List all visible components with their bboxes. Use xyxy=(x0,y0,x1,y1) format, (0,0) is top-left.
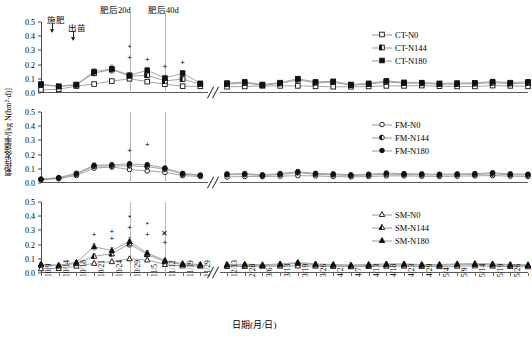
legend-item[interactable]: CT-N180 xyxy=(372,54,427,67)
y-tick-label: 0.4 xyxy=(19,212,38,221)
reference-line-40d xyxy=(165,112,166,183)
x-tick-label: 11/12 xyxy=(168,260,177,277)
x-tick-label: 3/6 xyxy=(265,267,274,277)
legend-label: CT-N144 xyxy=(395,43,427,53)
y-tick-label: 0.1 xyxy=(19,74,38,83)
legend-glyph xyxy=(380,148,385,153)
x-tick-label: 12/13 xyxy=(230,260,239,277)
y-tick-label: 0.0 xyxy=(19,269,38,278)
significance-marker: + xyxy=(127,54,132,62)
label-after-20d: 肥后20d xyxy=(100,3,131,15)
x-axis-title: 日期(月/日) xyxy=(232,318,277,331)
x-tick-label: 3/13 xyxy=(283,264,292,277)
legend-glyph xyxy=(380,122,385,127)
y-tick-label: 0.5 xyxy=(19,108,38,117)
legend-label: SM-N144 xyxy=(395,223,429,233)
panel-ct xyxy=(41,22,528,93)
significance-marker: + xyxy=(109,235,114,243)
x-tick-label: 4/2 xyxy=(336,267,345,277)
y-tick-label: 0.1 xyxy=(19,164,38,173)
x-tick-label: 4/18 xyxy=(389,264,398,277)
y-tick-label: 0.5 xyxy=(19,198,38,207)
legend-marker-circle-open xyxy=(372,120,392,129)
significance-marker: + xyxy=(163,239,168,247)
legend-label: FM-N144 xyxy=(395,133,429,143)
legend-label: FM-N0 xyxy=(395,120,421,130)
legend-glyph xyxy=(379,225,384,230)
legend-glyph xyxy=(379,212,384,217)
legend-item[interactable]: FM-N180 xyxy=(372,144,429,157)
x-tick-label: 11/5 xyxy=(150,264,159,277)
x-tick-label: 2/28 xyxy=(248,264,257,277)
significance-marker: + xyxy=(145,56,150,64)
x-tick-label: 4/7 xyxy=(354,267,363,277)
legend-label: FM-N180 xyxy=(395,146,429,156)
legend-ct: CT-N0 CT-N144 CT-N180 xyxy=(372,28,427,67)
x-tick-label: 10/24 xyxy=(115,260,124,277)
x-tick-label: 5/19 xyxy=(496,264,505,277)
y-tick-label: 0.0 xyxy=(19,179,38,188)
legend-marker-triangle-filled xyxy=(372,236,392,245)
x-tick-label: 5/9 xyxy=(460,267,469,277)
x-tick-label: 11/29 xyxy=(203,260,212,277)
legend-item[interactable]: FM-N0 xyxy=(372,118,429,131)
panel-fm xyxy=(41,112,528,183)
reference-line-40d xyxy=(165,12,166,93)
legend-marker-triangle-half xyxy=(372,223,392,232)
x-tick-label: 3/19 xyxy=(301,264,310,277)
legend-marker-square-half xyxy=(372,43,392,52)
significance-marker: + xyxy=(145,231,150,239)
x-tick-label: 4/23 xyxy=(407,264,416,277)
legend-marker-square-open xyxy=(372,30,392,39)
legend-label: CT-N180 xyxy=(395,56,427,66)
legend-marker-circle-half xyxy=(372,133,392,142)
x-tick-label: 10/18 xyxy=(79,260,88,277)
legend-marker-square-filled xyxy=(372,56,392,65)
y-tick-label: 0.4 xyxy=(19,122,38,131)
label-after-40d: 肥后40d xyxy=(148,3,179,15)
significance-marker: + xyxy=(92,231,97,239)
x-tick-label: 3/26 xyxy=(319,264,328,277)
y-tick-label: 0.0 xyxy=(19,89,38,98)
x-tick-label: 10/14 xyxy=(62,260,71,277)
legend-glyph xyxy=(380,32,385,37)
x-tick-label: 5/14 xyxy=(478,264,487,277)
legend-label: SM-N180 xyxy=(395,236,429,246)
x-tick-label: 11/19 xyxy=(186,260,195,277)
y-tick-label: 0.3 xyxy=(19,136,38,145)
y-tick-label: 0.1 xyxy=(19,254,38,263)
significance-marker: ✕ xyxy=(161,230,168,238)
legend-item[interactable]: CT-N0 xyxy=(372,28,427,41)
legend-item[interactable]: SM-N144 xyxy=(372,221,429,234)
legend-fm: FM-N0 FM-N144 FM-N180 xyxy=(372,118,429,157)
significance-marker: * xyxy=(146,221,149,229)
y-tick-label: 0.4 xyxy=(19,32,38,41)
significance-marker: + xyxy=(145,141,150,149)
significance-marker: * xyxy=(128,44,131,52)
x-tick-label: 10/9 xyxy=(44,264,53,277)
significance-marker: * xyxy=(128,214,131,222)
significance-marker: + xyxy=(127,224,132,232)
significance-marker: + xyxy=(163,63,168,71)
legend-marker-triangle-open xyxy=(372,210,392,219)
legend-item[interactable]: FM-N144 xyxy=(372,131,429,144)
legend-glyph xyxy=(380,45,385,50)
x-tick-label: 5/4 xyxy=(442,267,451,277)
legend-glyph xyxy=(380,135,385,140)
y-axis-title: 氨挥发速率/[kg N(hm²·d)] xyxy=(1,88,17,176)
y-tick-label: 0.2 xyxy=(19,150,38,159)
legend-item[interactable]: SM-N0 xyxy=(372,208,429,221)
legend-item[interactable]: CT-N144 xyxy=(372,41,427,54)
x-tick-label: 10/21 xyxy=(97,260,106,277)
legend-item[interactable]: SM-N180 xyxy=(372,234,429,247)
legend-sm: SM-N0 SM-N144 SM-N180 xyxy=(372,208,429,247)
y-tick-label: 0.2 xyxy=(19,60,38,69)
y-tick-label: 0.3 xyxy=(19,226,38,235)
x-tick-label: 4/13 xyxy=(372,264,381,277)
legend-glyph xyxy=(380,58,385,63)
significance-marker: + xyxy=(127,147,132,155)
y-tick-label: 0.5 xyxy=(19,18,38,27)
x-tick-label: 4/29 xyxy=(425,264,434,277)
x-tick-label: 5/26 xyxy=(513,264,522,277)
legend-glyph xyxy=(379,238,384,243)
